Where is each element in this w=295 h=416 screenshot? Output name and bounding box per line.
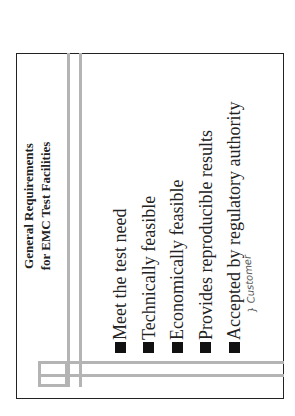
slide-title: General Requirements for EMC Test Facili…	[20, 53, 54, 359]
bullet-item: Economically feasible	[163, 102, 192, 353]
square-bullet-icon	[229, 342, 240, 353]
bullet-item: Accepted by regulatory authority	[220, 102, 249, 353]
title-line-1: General Requirements	[20, 53, 37, 359]
square-bullet-icon	[115, 342, 126, 353]
square-bullet-icon	[200, 342, 211, 353]
square-bullet-icon	[143, 342, 154, 353]
title-line-2: for EMC Test Facilities	[37, 53, 54, 359]
square-bullet-icon	[172, 342, 183, 353]
bullet-item: Technically feasible	[135, 102, 164, 353]
decor-corner-box	[38, 361, 68, 387]
decor-line-left-2	[66, 361, 284, 364]
decor-line-top-1	[67, 53, 70, 387]
decor-line-top-2	[79, 53, 82, 387]
bullet-list: Meet the test need Technically feasible …	[106, 102, 249, 353]
decor-line-left-1	[38, 374, 284, 377]
bullet-item: Meet the test need	[106, 102, 135, 353]
bullet-item: Provides reproducible results	[192, 102, 221, 353]
slide: General Requirements for EMC Test Facili…	[16, 53, 284, 399]
